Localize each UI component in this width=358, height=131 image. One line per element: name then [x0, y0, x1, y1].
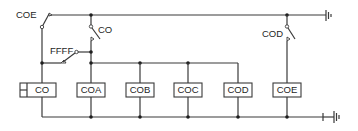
switch-coe-label: COE [16, 9, 37, 20]
ground-terminal-icon [326, 10, 331, 21]
coil-cob: COB [126, 83, 154, 97]
coil-coe: COE [273, 83, 301, 97]
switch-cod-label: COD [262, 28, 283, 39]
switch-coe [40, 13, 52, 29]
svg-text:CO: CO [35, 84, 49, 95]
svg-text:COA: COA [81, 84, 102, 95]
switch-ffff-label: FFFF [50, 45, 73, 56]
switch-co-label: CO [98, 24, 112, 35]
battery-terminal-icon [323, 111, 339, 123]
coil-co: CO [20, 83, 56, 97]
coil-coa: COA [77, 83, 105, 97]
svg-text:COE: COE [277, 84, 298, 95]
coil-coc: COC [174, 83, 202, 97]
coil-cod: COD [224, 83, 252, 97]
svg-text:COC: COC [177, 84, 198, 95]
svg-text:COB: COB [130, 84, 151, 95]
svg-text:COD: COD [227, 84, 248, 95]
relay-schematic: COE CO FFFF COD CO [0, 0, 358, 131]
switch-cod [285, 25, 295, 41]
